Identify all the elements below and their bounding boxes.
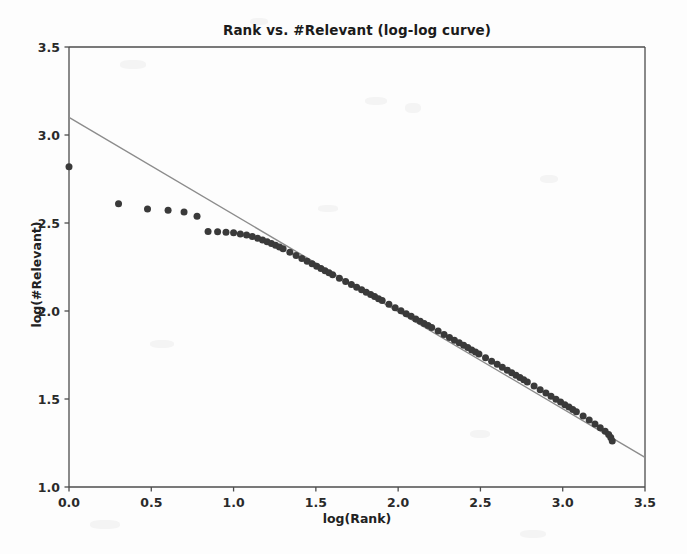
x-tick-label: 2.5 xyxy=(469,495,491,510)
x-axis-label: log(Rank) xyxy=(69,511,645,526)
y-tick-label: 3.5 xyxy=(8,40,60,55)
x-tick-label: 1.5 xyxy=(305,495,327,510)
x-tick-label: 0.5 xyxy=(140,495,162,510)
y-tick-label: 3.0 xyxy=(8,128,60,143)
axis-ticks xyxy=(65,47,646,492)
y-axis-label: log(#Relevant) xyxy=(29,195,44,355)
x-tick-label: 3.0 xyxy=(552,495,574,510)
x-tick-label: 3.5 xyxy=(634,495,656,510)
x-tick-label: 2.0 xyxy=(387,495,409,510)
x-tick-label: 1.0 xyxy=(222,495,244,510)
x-tick-label: 0.0 xyxy=(58,495,80,510)
y-tick-label: 1.0 xyxy=(8,480,60,495)
figure-canvas: Rank vs. #Relevant (log-log curve) 1.01.… xyxy=(0,0,687,554)
data-points xyxy=(66,163,616,444)
axes-frame xyxy=(69,47,645,487)
plot-area xyxy=(0,0,687,554)
y-tick-label: 1.5 xyxy=(8,392,60,407)
